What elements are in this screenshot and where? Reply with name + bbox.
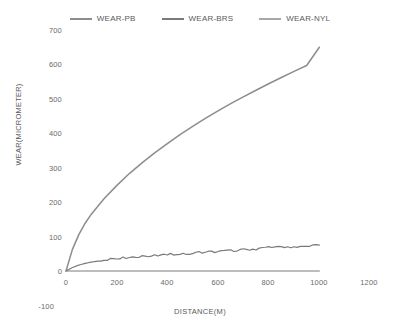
line-wear-brs xyxy=(66,245,319,271)
plot-area xyxy=(0,0,400,333)
wear-vs-distance-chart: WEAR-PB WEAR-BRS WEAR-NYL WEAR(MICROMETE… xyxy=(0,0,400,333)
line-wear-pb xyxy=(66,47,319,271)
series-lines xyxy=(66,47,319,271)
